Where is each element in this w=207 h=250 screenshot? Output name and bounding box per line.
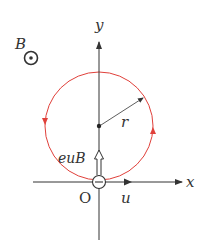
orbit-direction-arrow-right (150, 127, 156, 134)
diagram: B y x r euB u O (0, 0, 207, 250)
orbit-center (97, 124, 101, 128)
x-axis-label: x (186, 173, 195, 191)
y-axis-label: y (94, 16, 104, 34)
velocity-arrow (124, 179, 132, 186)
velocity-label: u (121, 189, 131, 207)
force-arrow (95, 150, 104, 175)
orbit-direction-arrow-left (42, 118, 48, 125)
origin-label: O (79, 189, 91, 207)
force-label: euB (58, 150, 86, 166)
radius-label: r (121, 113, 129, 131)
electron (93, 176, 106, 189)
field-label: B (14, 35, 26, 53)
magnetic-field-out-of-page-icon (25, 52, 38, 65)
